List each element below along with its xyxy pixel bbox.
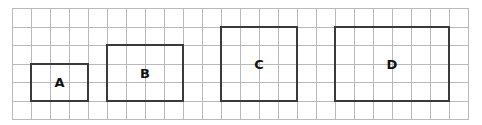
rectangle-b: B: [106, 44, 184, 102]
grid-line-horizontal: [12, 8, 469, 9]
rectangle-d: D: [334, 26, 450, 102]
rectangle-label: D: [387, 57, 398, 72]
rectangle-label: B: [140, 66, 150, 81]
grid-line-horizontal: [12, 119, 469, 120]
rectangle-label: C: [254, 57, 264, 72]
rectangle-c: C: [220, 26, 298, 102]
rectangle-label: A: [54, 75, 64, 90]
rectangle-a: A: [30, 63, 89, 102]
